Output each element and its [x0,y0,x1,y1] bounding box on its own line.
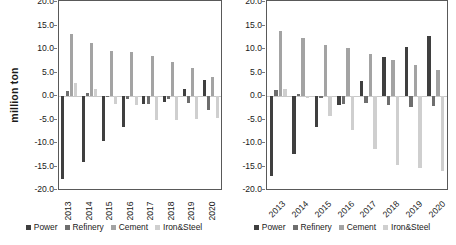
bar-group [79,1,99,189]
y-axis-tick-label: 0.0 [250,90,262,100]
bar-cement-2013 [70,34,73,96]
bar-refinery-2013 [274,90,277,96]
bar-group [120,1,140,189]
bar-cement-2015 [324,45,327,96]
bar-refinery-2020 [207,96,210,110]
figure-root: million ton 20.015.010.05.00.0-5.0-10.0-… [0,0,456,245]
legend-item-cement[interactable]: Cement [339,222,376,232]
bar-group [402,1,425,189]
bar-refinery-2016 [126,96,129,99]
bar-iron-steel-2018 [175,96,178,120]
x-axis-tick-label: 2016 [125,201,135,220]
legend-item-refinery[interactable]: Refinery [65,222,104,232]
bar-power-2017 [360,81,363,96]
bar-refinery-2014 [86,93,89,96]
y-axis-tick-mark [262,95,265,96]
x-axis-tick-label: 2014 [84,201,94,220]
legend-label: Refinery [301,222,332,232]
bar-refinery-2015 [319,96,322,98]
bar-power-2019 [183,89,186,96]
bar-power-2016 [122,96,125,127]
x-axis-tick-label: 2014 [290,199,311,220]
bar-iron-steel-2014 [94,89,97,96]
y-axis-tick-label: -20.0 [242,184,262,194]
bar-power-2017 [142,96,145,104]
legend-label: Cement [119,222,148,232]
y-axis-tick-label: -5.0 [39,114,54,124]
legend-swatch-icon [111,225,116,230]
legend-label: Power [262,222,286,232]
y-axis-title-text: million ton [8,67,20,122]
bar-group [312,1,335,189]
bar-power-2018 [382,57,385,96]
y-axis-tick-label: 10.0 [37,43,54,53]
bar-cement-2018 [391,60,394,96]
left-chart-panel: million ton 20.015.010.05.00.0-5.0-10.0-… [0,0,228,245]
y-axis-tick-label: -15.0 [242,161,262,171]
bar-group [140,1,160,189]
legend-swatch-icon [339,225,344,230]
legend-label: Cement [347,222,376,232]
y-axis-ticks: 20.015.010.05.00.0-5.0-10.0-15.0-20.0 [228,0,264,190]
bar-iron-steel-2015 [328,96,331,116]
bar-cement-2020 [436,70,439,96]
legend-item-iron-steel[interactable]: Iron&Steel [383,222,430,232]
bar-group [160,1,180,189]
bar-group [181,1,201,189]
bar-cement-2020 [211,77,214,96]
y-axis-tick-label: 5.0 [42,67,54,77]
bar-refinery-2013 [66,91,69,96]
y-axis-tick-mark [262,142,265,143]
bar-power-2016 [337,96,340,105]
bar-refinery-2019 [187,96,190,103]
legend-label: Power [34,222,58,232]
y-axis-tick-mark [262,48,265,49]
bar-group [425,1,448,189]
y-axis-tick-mark [262,25,265,26]
y-axis-tick-label: 0.0 [42,90,54,100]
y-axis-tick-label: 20.0 [245,0,262,6]
plot-area [266,0,448,190]
x-axis-tick-label: 2018 [381,199,402,220]
x-axis-tick-label: 2019 [404,199,425,220]
legend-swatch-icon [26,225,31,230]
legend-label: Refinery [73,222,104,232]
bar-iron-steel-2013 [74,83,77,96]
bar-refinery-2017 [147,96,150,104]
bar-power-2013 [61,96,64,179]
y-axis-tick-mark [54,48,57,49]
bar-iron-steel-2016 [351,96,354,130]
bar-group [267,1,290,189]
bar-refinery-2015 [106,96,109,97]
bar-iron-steel-2015 [114,96,117,104]
legend-item-refinery[interactable]: Refinery [293,222,332,232]
y-axis-tick-mark [54,189,57,190]
legend-item-iron-steel[interactable]: Iron&Steel [155,222,202,232]
bar-iron-steel-2020 [216,96,219,118]
bar-cement-2019 [191,68,194,96]
x-axis-tick-label: 2015 [313,199,334,220]
bar-iron-steel-2017 [155,96,158,120]
bar-refinery-2017 [364,96,367,103]
bar-power-2015 [102,96,105,141]
legend-item-cement[interactable]: Cement [111,222,148,232]
bar-power-2015 [315,96,318,127]
legend-item-power[interactable]: Power [26,222,58,232]
y-axis-tick-mark [54,166,57,167]
y-axis-tick-mark [54,25,57,26]
legend-item-power[interactable]: Power [254,222,286,232]
bar-refinery-2016 [342,96,345,104]
x-axis-tick-label: 2013 [267,199,288,220]
x-axis-tick-label: 2016 [335,199,356,220]
bar-iron-steel-2017 [373,96,376,149]
bar-cement-2018 [171,62,174,96]
x-axis-tick-label: 2018 [166,201,176,220]
bar-power-2020 [203,80,206,96]
y-axis-tick-mark [54,1,57,2]
bar-cement-2017 [369,54,372,96]
y-axis-tick-mark [262,189,265,190]
bar-power-2014 [292,96,295,154]
y-axis-tick-label: -10.0 [242,137,262,147]
y-axis-tick-mark [262,72,265,73]
y-axis-tick-label: -15.0 [34,161,54,171]
